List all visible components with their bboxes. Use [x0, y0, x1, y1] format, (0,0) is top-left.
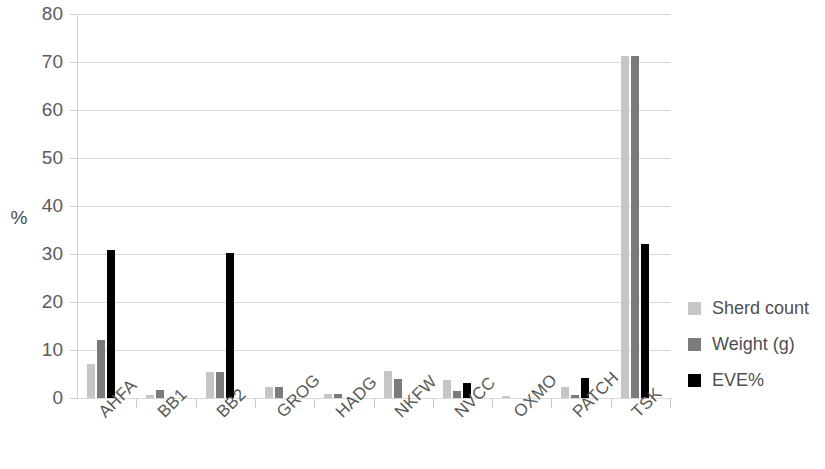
- legend-label: Sherd count: [712, 298, 809, 319]
- legend-label: EVE%: [712, 370, 764, 391]
- y-axis-tick-label: 20: [23, 292, 63, 311]
- bar-group: [255, 14, 314, 398]
- bar: [621, 56, 629, 398]
- y-axis-tick: [70, 350, 77, 351]
- legend-swatch-icon: [688, 374, 701, 387]
- bar: [206, 372, 214, 398]
- y-axis-tick: [70, 398, 77, 399]
- legend-label: Weight (g): [712, 334, 795, 355]
- y-axis-tick: [70, 158, 77, 159]
- y-axis-tick-label: 80: [23, 4, 63, 23]
- y-axis-tick-label: 60: [23, 100, 63, 119]
- y-axis-tick-label: 10: [23, 340, 63, 359]
- bar: [226, 253, 234, 398]
- bar: [561, 387, 569, 398]
- y-axis-tick-label: 70: [23, 52, 63, 71]
- bar-group: [136, 14, 195, 398]
- bar: [87, 364, 95, 398]
- bar-chart: % 01020304050607080 AHFABB1BB2GROGHADGNK…: [0, 0, 825, 469]
- bar: [265, 387, 273, 398]
- bar: [216, 372, 224, 398]
- y-axis-tick-label: 30: [23, 244, 63, 263]
- legend-item[interactable]: Sherd count: [688, 290, 823, 326]
- y-axis-tick-label: 50: [23, 148, 63, 167]
- bar-group: [196, 14, 255, 398]
- y-axis-tick: [70, 302, 77, 303]
- y-axis-tick: [70, 14, 77, 15]
- legend-item[interactable]: Weight (g): [688, 326, 823, 362]
- y-axis-tick: [70, 110, 77, 111]
- x-axis-labels: AHFABB1BB2GROGHADGNKFWNVCCOXMOPATCHTSK: [77, 398, 671, 469]
- bar-group: [492, 14, 551, 398]
- bar-group: [374, 14, 433, 398]
- bar-group: [433, 14, 492, 398]
- legend-swatch-icon: [688, 302, 701, 315]
- y-axis-tick: [70, 62, 77, 63]
- chart-legend: Sherd countWeight (g)EVE%: [688, 290, 823, 398]
- legend-swatch-icon: [688, 338, 701, 351]
- bar: [107, 250, 115, 398]
- bar-group: [314, 14, 373, 398]
- bar: [394, 379, 402, 398]
- legend-item[interactable]: EVE%: [688, 362, 823, 398]
- bar: [443, 380, 451, 398]
- bar: [275, 387, 283, 398]
- bar-group: [611, 14, 670, 398]
- bar-group: [551, 14, 610, 398]
- bar: [453, 391, 461, 398]
- y-axis-tick-label: 40: [23, 196, 63, 215]
- bar: [156, 390, 164, 398]
- plot-area: [77, 14, 670, 398]
- y-axis-tick: [70, 254, 77, 255]
- y-axis-tick-label: 0: [23, 388, 63, 407]
- bar: [631, 56, 639, 398]
- y-axis-tick: [70, 206, 77, 207]
- bar: [641, 244, 649, 398]
- bar-group: [77, 14, 136, 398]
- bar: [97, 340, 105, 398]
- bar: [384, 371, 392, 398]
